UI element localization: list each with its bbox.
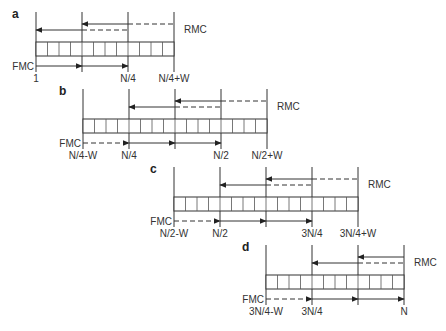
boundary-label: N/4-W (69, 150, 98, 161)
boundary-label: N/4+W (159, 73, 190, 84)
fmc-label: FMC (59, 138, 81, 149)
rmc-label: RMC (184, 24, 207, 35)
boundary-label: N/4 (120, 73, 136, 84)
panel-label: a (12, 7, 19, 21)
boundary-label: N/2-W (160, 228, 189, 239)
fmc-label: FMC (150, 216, 172, 227)
boundary-label: 3N/4 (301, 306, 323, 317)
chunked-message-passing-diagram: aRMCFMC1N/4N/4+WbRMCFMCN/4-WN/4N/2N/2+Wc… (0, 0, 446, 331)
panel-label: b (59, 84, 66, 98)
boundary-label: N/2 (213, 150, 229, 161)
panel-label: c (150, 162, 157, 176)
boundary-label: N/4 (121, 150, 137, 161)
boundary-label: 1 (33, 73, 39, 84)
fmc-label: FMC (12, 61, 34, 72)
panel-label: d (242, 240, 249, 254)
boundary-label: 3N/4-W (249, 306, 283, 317)
boundary-label: N (400, 306, 407, 317)
rmc-label: RMC (277, 101, 300, 112)
boundary-label: N/2 (212, 228, 228, 239)
rmc-label: RMC (368, 179, 391, 190)
rmc-label: RMC (414, 257, 437, 268)
boundary-label: 3N/4+W (340, 228, 377, 239)
fmc-label: FMC (242, 294, 264, 305)
boundary-label: 3N/4 (301, 228, 323, 239)
boundary-label: N/2+W (252, 150, 283, 161)
